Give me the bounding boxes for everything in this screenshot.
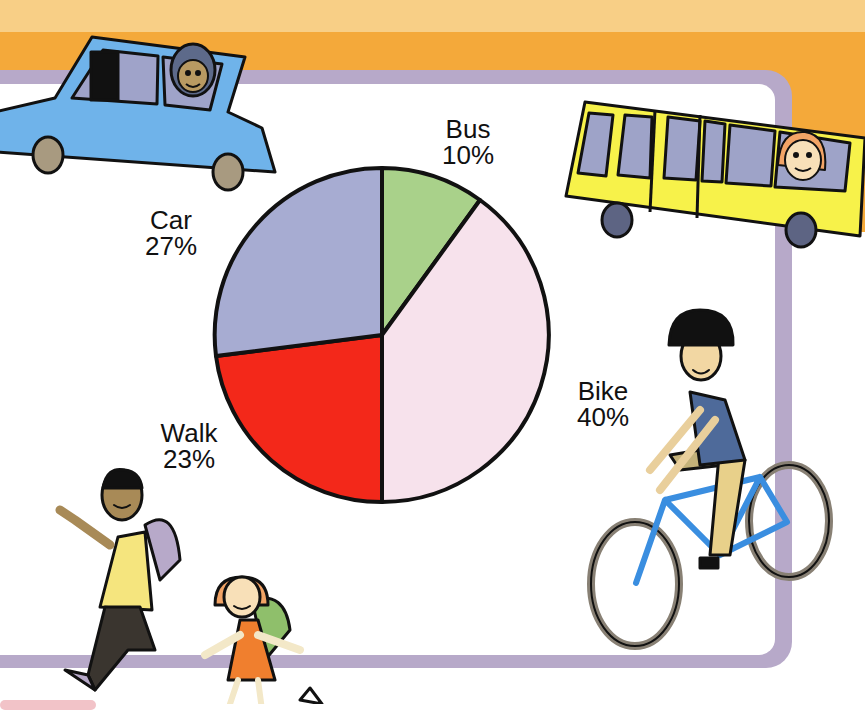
label-bike-pct: 40%	[563, 404, 643, 430]
bus-illustration	[566, 102, 865, 247]
label-car-pct: 27%	[131, 233, 211, 259]
car-illustration	[0, 37, 275, 190]
label-car-name: Car	[131, 207, 211, 233]
label-bike: Bike 40%	[563, 378, 643, 430]
label-bike-name: Bike	[563, 378, 643, 404]
label-bus: Bus 10%	[428, 116, 508, 168]
label-bus-name: Bus	[428, 116, 508, 142]
label-walk-pct: 23%	[146, 446, 232, 472]
slice-walk	[216, 335, 382, 502]
label-walk-name: Walk	[146, 420, 232, 446]
label-walk: Walk 23%	[146, 420, 232, 472]
pie-chart	[215, 168, 549, 502]
label-bus-pct: 10%	[428, 142, 508, 168]
label-car: Car 27%	[131, 207, 211, 259]
walking-children-illustration	[60, 469, 322, 704]
cyclist-illustration	[591, 310, 829, 646]
slice-car	[215, 168, 382, 356]
